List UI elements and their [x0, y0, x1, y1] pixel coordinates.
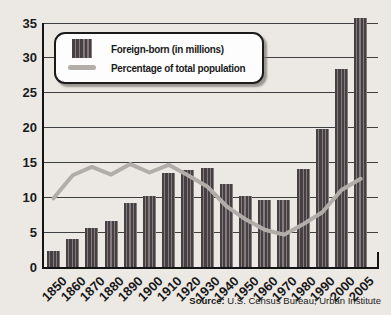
legend-label-foreign-born: Foreign-born (in millions) [111, 43, 224, 55]
bar-legend-swatch-icon [72, 39, 92, 58]
immigration-chart: 05101520253035 1850186018701880189019001… [0, 0, 391, 315]
source-citation: Source: U.S. Census Bureau; Urban Instit… [189, 295, 381, 306]
legend-row-percentage: Percentage of total population [68, 58, 256, 77]
legend-swatch-holder [68, 39, 100, 58]
source-text: U.S. Census Bureau; Urban Institute [225, 295, 381, 306]
percentage-line [54, 164, 361, 235]
legend-label-percentage: Percentage of total population [111, 62, 245, 74]
legend-swatch-holder [68, 65, 100, 70]
source-label: Source: [189, 295, 224, 306]
line-legend-swatch-icon [68, 65, 96, 70]
legend-row-foreign-born: Foreign-born (in millions) [68, 39, 256, 58]
legend: Foreign-born (in millions) Percentage of… [54, 32, 264, 84]
